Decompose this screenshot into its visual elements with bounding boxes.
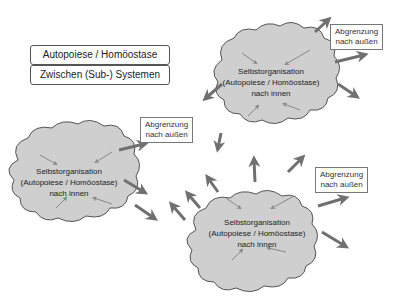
- cloud-text-line: (Autopoiese / Homöostase): [206, 77, 336, 88]
- boundary-label-bottom: Abgrenzung nach außen: [315, 167, 368, 193]
- arrow-out: [135, 205, 154, 218]
- cloud-top-text: Selbstorganisation (Autopoiese / Homöost…: [206, 66, 336, 99]
- cloud-text-line: nach innen: [4, 188, 134, 199]
- arrow-out: [188, 194, 200, 208]
- boundary-label-middle: Abgrenzung nach außen: [140, 117, 193, 143]
- legend-item-autopoiese: Autopoiese / Homöostase: [30, 45, 170, 65]
- boundary-label-line: nach außen: [335, 37, 378, 47]
- boundary-label-line: Abgrenzung: [335, 27, 378, 37]
- arrow-out: [288, 158, 302, 172]
- arrow-out: [218, 133, 221, 148]
- boundary-label-line: Abgrenzung: [145, 120, 188, 130]
- cloud-left-text: Selbstorganisation (Autopoiese / Homöost…: [4, 166, 134, 199]
- arrow-out: [172, 205, 185, 220]
- cloud-text-line: nach innen: [192, 239, 322, 250]
- boundary-label-line: nach außen: [320, 180, 363, 190]
- arrow-out: [318, 198, 345, 206]
- arrow-out: [322, 232, 345, 246]
- boundary-label-line: nach außen: [145, 130, 188, 140]
- cloud-text-line: Selbstorganisation: [206, 66, 336, 77]
- cloud-text-line: Selbstorganisation: [192, 217, 322, 228]
- legend-item-subsystems: Zwischen (Sub-) Systemen: [30, 65, 170, 85]
- cloud-text-line: nach innen: [206, 88, 336, 99]
- cloud-text-line: (Autopoiese / Homöostase): [4, 177, 134, 188]
- cloud-text-line: Selbstorganisation: [4, 166, 134, 177]
- arrow-out: [335, 55, 364, 62]
- cloud-text-line: (Autopoiese / Homöostase): [192, 228, 322, 239]
- arrow-out: [315, 20, 328, 32]
- boundary-label-top: Abgrenzung nach außen: [330, 24, 383, 50]
- boundary-label-line: Abgrenzung: [320, 170, 363, 180]
- cloud-bottom-text: Selbstorganisation (Autopoiese / Homöost…: [192, 217, 322, 250]
- arrow-out: [254, 160, 255, 182]
- arrow-out: [208, 178, 218, 192]
- arrow-out: [338, 84, 356, 96]
